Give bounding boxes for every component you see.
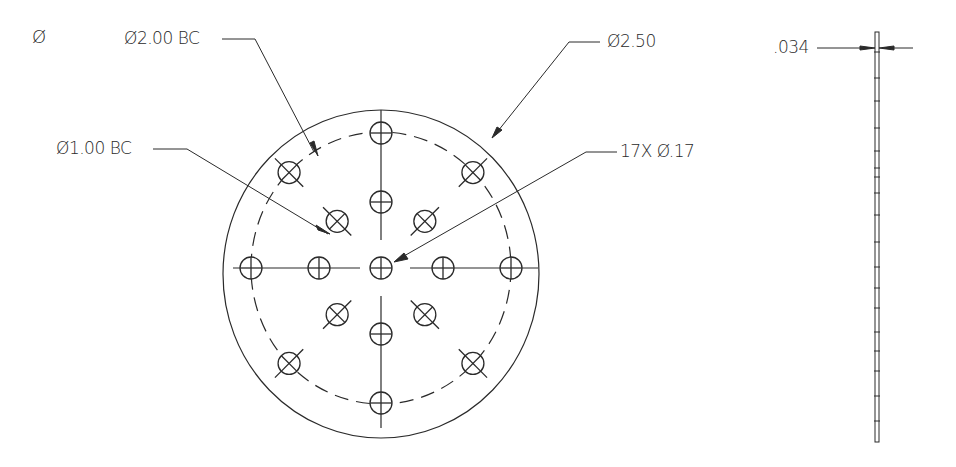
outer-bc-leader [222,39,314,152]
hole [370,392,392,414]
hole-callout-label: 17X Ø.17 [620,143,694,160]
outer-diameter-label: Ø2.50 [607,33,656,50]
hole [414,210,436,232]
hole [240,257,262,279]
inner-bc-label: Ø1.00 BC [56,140,131,157]
thickness-arrow-right [879,46,894,50]
hole [278,352,300,374]
diameter-symbol-label: Ø [32,28,46,46]
hole [370,122,392,144]
hole [370,191,392,213]
outer-diameter-arrowhead [492,127,502,138]
hole [278,162,300,184]
hole-callout-leader [397,152,617,260]
hole [326,304,348,326]
hole [462,352,484,374]
hole [308,257,330,279]
side-view-plate [875,32,879,442]
hole [370,323,392,345]
thickness-label: .034 [773,39,809,56]
technical-drawing [0,0,956,467]
hole [370,257,392,279]
hole [432,257,454,279]
hole [500,257,522,279]
inner-bc-leader [153,149,328,234]
outer-bc-label: Ø2.00 BC [124,30,199,47]
hole [462,162,484,184]
thickness-arrow-left [860,46,875,50]
hole [326,210,348,232]
outer-diameter-leader [494,42,600,136]
hole [414,304,436,326]
